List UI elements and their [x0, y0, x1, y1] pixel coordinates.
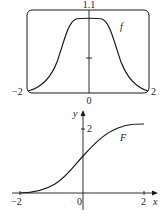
plot-F: −2 0 2 x y 2 F: [11, 108, 158, 210]
y-axis-label: y: [72, 108, 78, 119]
curve-f: [28, 18, 148, 91]
xmin-label: −2: [12, 86, 23, 97]
origin-label: 0: [87, 95, 92, 106]
x-axis-arrow-icon: [152, 191, 158, 196]
x-axis-label: x: [152, 196, 158, 207]
curve-label-F: F: [119, 132, 127, 143]
curve-label-f: f: [120, 21, 124, 32]
plot-f: 1.1 −2 2 0 f: [12, 0, 156, 106]
ytick-label: 2: [87, 123, 92, 134]
ymax-label: 1.1: [83, 0, 96, 10]
y-axis-arrow-icon: [81, 110, 86, 116]
origin-label: 0: [77, 196, 82, 207]
figure: 1.1 −2 2 0 f −2 0 2 x y 2 F: [0, 0, 164, 218]
xmax-label: 2: [141, 196, 146, 207]
xmax-label: 2: [151, 86, 156, 97]
xmin-label: −2: [11, 196, 22, 207]
